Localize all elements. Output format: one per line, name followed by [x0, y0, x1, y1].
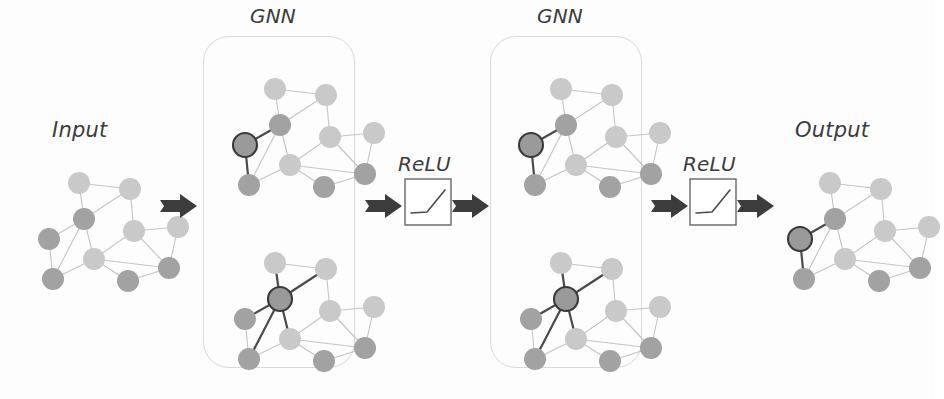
graph-node	[524, 348, 546, 370]
relu-box-2	[689, 178, 737, 226]
graph-node	[234, 308, 256, 330]
gnn2-graph-bottom-svg	[504, 232, 684, 387]
relu-box-outline	[405, 179, 451, 225]
relu-box-1	[404, 178, 452, 226]
graph-node	[601, 84, 623, 106]
gnn1-graph-top-svg	[218, 58, 398, 213]
graph-node	[319, 300, 341, 322]
graph-node-highlighted	[788, 227, 812, 251]
graph-node	[640, 163, 662, 185]
graph-node	[38, 228, 60, 250]
arrow-1	[160, 193, 198, 219]
graph-node	[550, 78, 572, 100]
graph-node	[605, 300, 627, 322]
arrow-4	[651, 193, 689, 219]
graph-node	[68, 172, 90, 194]
arrow-3	[452, 193, 490, 219]
graph-node	[793, 268, 815, 290]
label-input: Input	[52, 118, 107, 142]
graph-nodes	[519, 78, 671, 198]
gnn1-graph-top	[218, 58, 398, 213]
graph-nodes	[788, 172, 940, 292]
graph-node	[83, 248, 105, 270]
graph-node	[319, 126, 341, 148]
graph-node	[834, 248, 856, 270]
arrow-1	[160, 193, 198, 219]
arrow-5	[737, 193, 775, 219]
graph-node	[605, 126, 627, 148]
label-output: Output	[795, 118, 869, 142]
graph-node	[363, 122, 385, 144]
graph-node	[264, 252, 286, 274]
graph-node	[313, 176, 335, 198]
output-graph	[773, 152, 944, 307]
arrow-glyph	[651, 194, 688, 218]
graph-node	[269, 114, 291, 136]
graph-node	[649, 122, 671, 144]
graph-node	[640, 337, 662, 359]
graph-node	[565, 154, 587, 176]
input-graph-svg	[22, 152, 202, 307]
graph-nodes	[233, 78, 385, 198]
graph-node-highlighted	[233, 133, 257, 157]
graph-node	[870, 178, 892, 200]
graph-node-highlighted	[554, 287, 578, 311]
label-gnn-1: GNN	[250, 4, 296, 28]
arrow-glyph	[365, 194, 402, 218]
graph-node	[550, 252, 572, 274]
gnn1-graph-bottom	[218, 232, 398, 387]
graph-node	[73, 208, 95, 230]
arrow-4	[651, 193, 689, 219]
graph-node-highlighted	[268, 287, 292, 311]
gnn1-graph-bottom-svg	[218, 232, 398, 387]
graph-node-highlighted	[519, 133, 543, 157]
graph-node	[599, 176, 621, 198]
graph-node	[874, 220, 896, 242]
arrow-glyph	[452, 194, 489, 218]
graph-node	[918, 216, 940, 238]
relu-box-outline	[690, 179, 736, 225]
graph-node	[601, 258, 623, 280]
gnn2-graph-top	[504, 58, 684, 213]
relu-box-1	[404, 178, 452, 226]
graph-node	[238, 348, 260, 370]
relu-box-2	[689, 178, 737, 226]
graph-node	[315, 258, 337, 280]
arrow-glyph	[737, 194, 774, 218]
graph-node	[279, 154, 301, 176]
graph-node	[238, 174, 260, 196]
graph-node	[909, 257, 931, 279]
graph-node	[279, 328, 301, 350]
graph-node	[555, 114, 577, 136]
graph-node	[524, 174, 546, 196]
graph-node	[354, 163, 376, 185]
graph-node	[313, 350, 335, 372]
graph-node	[315, 84, 337, 106]
graph-node	[264, 78, 286, 100]
graph-node	[824, 208, 846, 230]
output-graph-svg	[773, 152, 944, 307]
graph-node	[119, 178, 141, 200]
graph-node	[868, 270, 890, 292]
arrow-3	[452, 193, 490, 219]
graph-node	[158, 257, 180, 279]
graph-node	[819, 172, 841, 194]
arrow-2	[365, 193, 403, 219]
label-relu-1: ReLU	[398, 152, 451, 176]
gnn2-graph-top-svg	[504, 58, 684, 213]
label-gnn-2: GNN	[537, 4, 583, 28]
graph-node	[117, 270, 139, 292]
graph-node	[520, 308, 542, 330]
graph-node	[599, 350, 621, 372]
graph-node	[123, 220, 145, 242]
input-graph	[22, 152, 202, 307]
gnn2-graph-bottom	[504, 232, 684, 387]
arrow-5	[737, 193, 775, 219]
graph-node	[167, 216, 189, 238]
graph-node	[363, 296, 385, 318]
graph-node	[565, 328, 587, 350]
graph-node	[42, 268, 64, 290]
label-relu-2: ReLU	[683, 152, 736, 176]
graph-node	[354, 337, 376, 359]
